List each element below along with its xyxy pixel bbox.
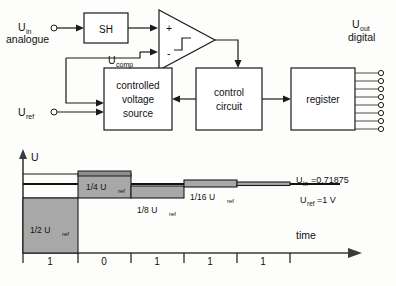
block-control-circuit[interactable] xyxy=(196,68,262,130)
step-bar-5 xyxy=(237,182,290,186)
arrow-control-cvs xyxy=(172,96,180,103)
annotation-uref-value: =1 V xyxy=(317,195,336,205)
annotation-uref-sub: ref xyxy=(307,200,315,207)
arrow-control-register xyxy=(283,96,291,103)
output-pin-terminal[interactable] xyxy=(378,118,383,123)
step-bar-3 xyxy=(131,186,184,198)
annotation-uin-value: =0.71875 xyxy=(311,175,349,185)
wire-comp-control xyxy=(215,40,238,60)
approximation-chart: U time 1 0 1 1 1 1/2 U ref 1/4 U xyxy=(0,141,396,286)
x-axis-arrow xyxy=(348,248,362,258)
step-label-2-sub: ref xyxy=(169,211,176,217)
u-in-label: U xyxy=(18,21,26,33)
comparator[interactable] xyxy=(159,10,215,70)
u-out-label: U xyxy=(352,18,360,30)
step-label-1-sub: ref xyxy=(118,188,125,194)
comparator-plus: + xyxy=(166,22,172,34)
u-comp-sub: comp xyxy=(116,61,133,69)
u-comp-label: U xyxy=(108,54,116,66)
cvs-line1: controlled xyxy=(116,80,159,91)
step-label-3: 1/16 U xyxy=(190,192,215,202)
x-axis-label: time xyxy=(296,229,316,241)
wire-feedback-path xyxy=(66,58,96,103)
u-in-terminal[interactable] xyxy=(51,25,57,31)
u-ref-terminal[interactable] xyxy=(51,109,57,115)
bit-label-4: 1 xyxy=(260,256,266,267)
annotation-uref: U xyxy=(300,195,307,205)
register-label: register xyxy=(306,94,340,105)
figure-root: U in analogue U ref SH + - U comp contro… xyxy=(0,0,396,286)
step-label-0-sub: ref xyxy=(62,231,69,237)
output-pin-terminal[interactable] xyxy=(378,78,383,83)
output-pin-terminal[interactable] xyxy=(378,94,383,99)
u-out-line2: digital xyxy=(348,31,375,43)
arrow-uref-cvs xyxy=(96,109,104,116)
u-in-line2: analogue xyxy=(6,33,49,45)
comparator-minus: - xyxy=(167,47,171,59)
arrow-fb-comp xyxy=(150,49,158,56)
control-line2: circuit xyxy=(216,101,242,112)
output-pin-terminal[interactable] xyxy=(378,70,383,75)
block-diagram: U in analogue U ref SH + - U comp contro… xyxy=(0,0,396,145)
wire-feedback-top xyxy=(66,52,140,58)
y-axis-arrow xyxy=(19,149,27,159)
cvs-line3: source xyxy=(123,108,153,119)
output-pin-terminal[interactable] xyxy=(378,110,383,115)
annotation-uin: U xyxy=(296,175,303,185)
arrow-comp-control xyxy=(235,60,242,68)
output-pin-terminal[interactable] xyxy=(378,126,383,131)
cvs-line2: voltage xyxy=(122,94,155,105)
output-pin-terminal[interactable] xyxy=(378,86,383,91)
arrow-feedback-cvs xyxy=(96,100,104,107)
register-output-pins xyxy=(355,70,384,131)
step-bar-4 xyxy=(184,180,237,187)
step-label-3-sub: ref xyxy=(227,198,234,204)
step-label-2: 1/8 U xyxy=(137,205,157,215)
bit-label-3: 1 xyxy=(207,256,213,267)
step-label-0: 1/2 U xyxy=(30,225,50,235)
bit-label-2: 1 xyxy=(154,256,160,267)
annotation-uin-sub: in xyxy=(303,180,308,187)
bit-label-0: 1 xyxy=(47,256,53,267)
arrow-sh-comp xyxy=(150,25,158,32)
u-ref-label: U xyxy=(18,106,26,118)
bit-label-1: 0 xyxy=(101,256,107,267)
arrow-uin-sh xyxy=(76,25,84,32)
output-pin-terminal[interactable] xyxy=(378,102,383,107)
u-ref-sub: ref xyxy=(26,113,34,120)
control-line1: control xyxy=(214,87,244,98)
step-label-1: 1/4 U xyxy=(86,182,106,192)
step-bar-2-cap xyxy=(78,171,131,176)
block-sh-label: SH xyxy=(99,24,113,35)
y-axis-label: U xyxy=(31,151,39,163)
